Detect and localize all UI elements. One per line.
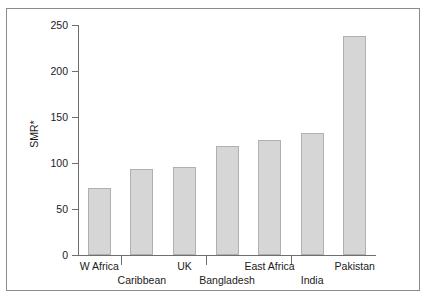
plot-area: SMR* 050100150200250 W AfricaCaribbeanUK… [0,0,428,300]
y-tick [72,163,78,164]
x-tick-label: India [267,275,357,286]
x-tick-label: Caribbean [97,275,187,286]
y-tick-label: 150 [36,112,68,122]
y-tick [72,209,78,210]
x-tick-label: UK [139,261,229,272]
x-tick-label: Pakistan [310,261,400,272]
x-tick-label: Bangladesh [182,275,272,286]
y-tick [72,255,78,256]
y-tick [72,25,78,26]
x-tick-label: East Africa [225,261,315,272]
y-tick-label: 0 [36,250,68,260]
bar [88,188,111,255]
x-tick-label: W Africa [54,261,144,272]
x-axis-line [78,255,376,256]
bar [301,133,324,255]
bar [343,36,366,255]
bar [258,140,281,255]
y-axis-line [78,25,79,256]
chart-figure: SMR* 050100150200250 W AfricaCaribbeanUK… [0,0,428,300]
bar [173,167,196,255]
y-tick-label: 100 [36,158,68,168]
bar [130,169,153,255]
y-tick [72,71,78,72]
y-tick [72,117,78,118]
bar [216,146,239,255]
y-tick-label: 250 [36,20,68,30]
y-tick-label: 50 [36,204,68,214]
y-tick-label: 200 [36,66,68,76]
